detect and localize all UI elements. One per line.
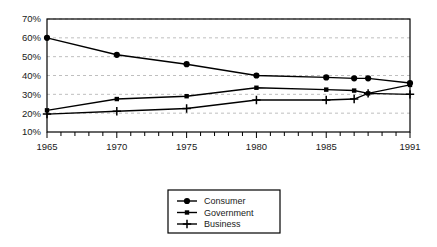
y-tick-label-70: 70% xyxy=(22,13,42,24)
x-tick-label-1980: 1980 xyxy=(246,141,267,152)
x-tick-label-1991: 1991 xyxy=(399,141,420,152)
x-tick-label-1975: 1975 xyxy=(176,141,197,152)
data-point-consumer-1970 xyxy=(114,52,120,58)
legend-label-business: Business xyxy=(204,219,241,229)
data-point-government-1985 xyxy=(324,87,328,91)
y-tick-label-50: 50% xyxy=(22,51,42,62)
legend-item-business[interactable]: Business xyxy=(177,219,241,229)
y-tick-label-10: 10% xyxy=(22,126,42,137)
data-point-government-1980 xyxy=(254,86,258,90)
x-tick-label-1985: 1985 xyxy=(316,141,337,152)
y-tick-label-40: 40% xyxy=(22,70,42,81)
data-point-government-1991 xyxy=(408,83,412,87)
legend-label-government: Government xyxy=(204,208,254,218)
chart-legend: ConsumerGovernmentBusiness xyxy=(168,190,280,233)
y-tick-label-30: 30% xyxy=(22,89,42,100)
data-point-consumer-1965 xyxy=(44,35,50,41)
legend-marker-filled-circle xyxy=(184,198,190,204)
data-point-government-1975 xyxy=(184,94,188,98)
data-point-government-1987 xyxy=(352,88,356,92)
data-point-consumer-1987 xyxy=(351,75,357,81)
x-tick-label-1970: 1970 xyxy=(106,141,127,152)
data-point-consumer-1980 xyxy=(253,72,259,78)
chart-figure: 10%20%30%40%50%60%70% 196519701975198019… xyxy=(0,0,437,247)
data-point-consumer-1988 xyxy=(365,75,371,81)
y-tick-label-60: 60% xyxy=(22,32,42,43)
data-point-consumer-1975 xyxy=(184,61,190,67)
line-chart: 10%20%30%40%50%60%70% 196519701975198019… xyxy=(0,0,437,247)
legend-marker-filled-square xyxy=(185,210,189,214)
y-tick-label-20: 20% xyxy=(22,108,42,119)
data-point-government-1970 xyxy=(115,97,119,101)
data-point-consumer-1985 xyxy=(323,74,329,80)
legend-label-consumer: Consumer xyxy=(204,196,246,206)
x-tick-label-1965: 1965 xyxy=(36,141,57,152)
